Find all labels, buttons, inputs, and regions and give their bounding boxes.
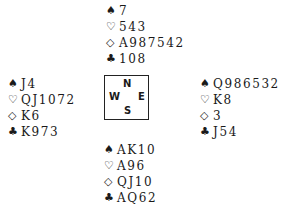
diamond-icon: ◇ (106, 35, 119, 51)
east-spades-row: ♠Q986532 (200, 76, 280, 92)
north-diamonds-row: ◇A987542 (106, 35, 185, 51)
heart-icon: ♡ (200, 92, 213, 108)
club-icon: ♣ (200, 124, 213, 140)
spade-icon: ♠ (200, 76, 213, 92)
east-clubs-row: ♣J54 (200, 124, 280, 140)
south-hearts-row: ♡A96 (104, 158, 157, 174)
east-hearts-row: ♡K8 (200, 92, 280, 108)
north-hand: ♠7 ♡543 ◇A987542 ♣108 (106, 3, 185, 67)
club-icon: ♣ (106, 51, 119, 67)
compass-east-label: E (138, 91, 145, 102)
diamond-icon: ◇ (104, 174, 117, 190)
compass-north-label: N (123, 78, 131, 89)
heart-icon: ♡ (106, 19, 119, 35)
south-diamonds-row: ◇QJ10 (104, 174, 157, 190)
west-spades-row: ♠J4 (8, 76, 76, 92)
west-diamonds-row: ◇K6 (8, 108, 76, 124)
club-icon: ♣ (8, 124, 21, 140)
south-spades-row: ♠AK10 (104, 142, 157, 158)
west-clubs-row: ♣K973 (8, 124, 76, 140)
north-hearts-row: ♡543 (106, 19, 185, 35)
spade-icon: ♠ (8, 76, 21, 92)
north-clubs-row: ♣108 (106, 51, 185, 67)
east-diamonds-row: ◇3 (200, 108, 280, 124)
diamond-icon: ◇ (8, 108, 21, 124)
club-icon: ♣ (104, 190, 117, 204)
compass-south-label: S (124, 105, 131, 116)
spade-icon: ♠ (106, 3, 119, 19)
west-hand: ♠J4 ♡QJ1072 ◇K6 ♣K973 (8, 76, 76, 140)
heart-icon: ♡ (8, 92, 21, 108)
compass-box: N W E S (104, 75, 149, 120)
east-hand: ♠Q986532 ♡K8 ◇3 ♣J54 (200, 76, 280, 140)
heart-icon: ♡ (104, 158, 117, 174)
south-clubs-row: ♣AQ62 (104, 190, 157, 204)
west-hearts-row: ♡QJ1072 (8, 92, 76, 108)
north-spades-row: ♠7 (106, 3, 185, 19)
compass-west-label: W (109, 91, 120, 102)
diamond-icon: ◇ (200, 108, 213, 124)
south-hand: ♠AK10 ♡A96 ◇QJ10 ♣AQ62 (104, 142, 157, 204)
spade-icon: ♠ (104, 142, 117, 158)
